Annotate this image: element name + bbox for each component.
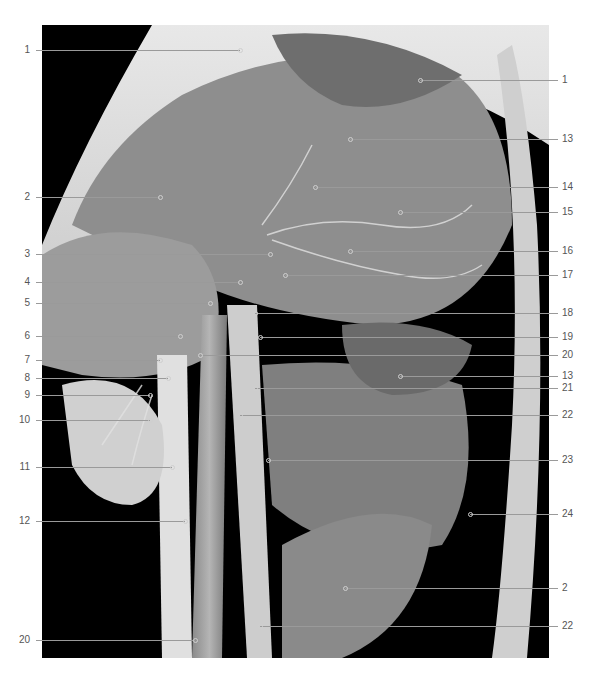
leader-line bbox=[470, 514, 558, 515]
leader-line bbox=[36, 360, 160, 361]
leader-line bbox=[240, 415, 558, 416]
leader-endpoint bbox=[238, 413, 243, 418]
label-right-14: 14 bbox=[562, 182, 573, 192]
label-right-22: 22 bbox=[562, 410, 573, 420]
leader-endpoint bbox=[158, 195, 163, 200]
label-left-20: 20 bbox=[10, 635, 30, 645]
leader-endpoint bbox=[238, 280, 243, 285]
label-left-9: 9 bbox=[10, 390, 30, 400]
leader-endpoint bbox=[170, 465, 175, 470]
leader-line bbox=[36, 395, 150, 396]
label-left-11: 11 bbox=[10, 462, 30, 472]
leader-endpoint bbox=[468, 512, 473, 517]
leader-line bbox=[400, 376, 558, 377]
label-right-13: 13 bbox=[562, 371, 573, 381]
leader-endpoint bbox=[418, 78, 423, 83]
leader-line bbox=[200, 355, 558, 356]
label-right-18: 18 bbox=[562, 308, 573, 318]
label-right-21: 21 bbox=[562, 383, 573, 393]
leader-line bbox=[36, 254, 270, 255]
label-right-2: 2 bbox=[562, 583, 568, 593]
leader-endpoint bbox=[313, 185, 318, 190]
leader-line bbox=[36, 420, 150, 421]
leader-endpoint bbox=[238, 48, 243, 53]
leader-line bbox=[36, 378, 168, 379]
label-right-24: 24 bbox=[562, 509, 573, 519]
leader-endpoint bbox=[398, 374, 403, 379]
label-left-1: 1 bbox=[10, 45, 30, 55]
anatomical-figure: 1234567891011122011314151617181920132122… bbox=[0, 0, 595, 680]
label-right-19: 19 bbox=[562, 332, 573, 342]
leader-endpoint bbox=[283, 273, 288, 278]
leader-endpoint bbox=[348, 137, 353, 142]
label-right-13: 13 bbox=[562, 134, 573, 144]
leader-endpoint bbox=[348, 249, 353, 254]
label-left-10: 10 bbox=[10, 415, 30, 425]
leader-line bbox=[420, 80, 558, 81]
leader-line bbox=[268, 460, 558, 461]
leader-endpoint bbox=[208, 301, 213, 306]
dissection-photograph bbox=[42, 25, 549, 658]
photo-illustration bbox=[42, 25, 549, 658]
label-right-15: 15 bbox=[562, 207, 573, 217]
label-left-4: 4 bbox=[10, 277, 30, 287]
leader-line bbox=[255, 388, 558, 389]
label-left-6: 6 bbox=[10, 331, 30, 341]
label-left-8: 8 bbox=[10, 373, 30, 383]
leader-endpoint bbox=[166, 376, 171, 381]
leader-line bbox=[36, 282, 240, 283]
leader-line bbox=[36, 336, 180, 337]
leader-line bbox=[36, 640, 195, 641]
label-right-16: 16 bbox=[562, 246, 573, 256]
leader-endpoint bbox=[258, 624, 263, 629]
leader-line bbox=[345, 588, 558, 589]
label-left-12: 12 bbox=[10, 516, 30, 526]
leader-line bbox=[36, 467, 172, 468]
leader-endpoint bbox=[266, 458, 271, 463]
label-left-3: 3 bbox=[10, 249, 30, 259]
leader-line bbox=[36, 50, 240, 51]
leader-endpoint bbox=[258, 335, 263, 340]
leader-line bbox=[36, 521, 185, 522]
leader-endpoint bbox=[178, 334, 183, 339]
leader-endpoint bbox=[148, 393, 153, 398]
leader-line bbox=[36, 303, 210, 304]
leader-line bbox=[400, 212, 558, 213]
label-left-5: 5 bbox=[10, 298, 30, 308]
leader-line bbox=[350, 139, 558, 140]
leader-endpoint bbox=[158, 358, 163, 363]
leader-line bbox=[260, 337, 558, 338]
label-right-1: 1 bbox=[562, 75, 568, 85]
label-right-20: 20 bbox=[562, 350, 573, 360]
leader-line bbox=[260, 626, 558, 627]
leader-line bbox=[285, 275, 558, 276]
leader-endpoint bbox=[268, 252, 273, 257]
label-right-17: 17 bbox=[562, 270, 573, 280]
leader-endpoint bbox=[198, 353, 203, 358]
leader-endpoint bbox=[148, 418, 153, 423]
leader-endpoint bbox=[253, 311, 258, 316]
leader-endpoint bbox=[183, 519, 188, 524]
leader-endpoint bbox=[343, 586, 348, 591]
label-left-2: 2 bbox=[10, 192, 30, 202]
leader-endpoint bbox=[398, 210, 403, 215]
leader-line bbox=[255, 313, 558, 314]
leader-line bbox=[350, 251, 558, 252]
label-left-7: 7 bbox=[10, 355, 30, 365]
label-right-23: 23 bbox=[562, 455, 573, 465]
leader-endpoint bbox=[193, 638, 198, 643]
leader-line bbox=[36, 197, 160, 198]
label-right-22: 22 bbox=[562, 621, 573, 631]
leader-line bbox=[315, 187, 558, 188]
leader-endpoint bbox=[253, 386, 258, 391]
